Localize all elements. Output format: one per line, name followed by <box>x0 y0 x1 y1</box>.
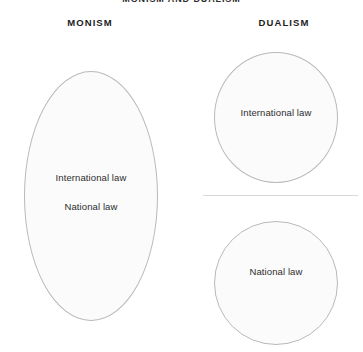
monism-label-international-law: International law <box>24 172 158 183</box>
dualism-circle-bottom-shape <box>214 221 338 345</box>
dualism-divider-line <box>203 195 358 196</box>
monism-ellipse-shape <box>24 71 158 321</box>
diagram-title: MONISM AND DUALISM <box>0 0 363 4</box>
dualism-label-national-law: National law <box>214 266 338 277</box>
monism-label-national-law: National law <box>24 201 158 212</box>
column-header-monism: MONISM <box>20 17 160 28</box>
column-header-dualism: DUALISM <box>214 17 354 28</box>
diagram-canvas: MONISM AND DUALISM MONISM DUALISM Intern… <box>0 0 363 352</box>
dualism-label-international-law: International law <box>214 107 338 118</box>
